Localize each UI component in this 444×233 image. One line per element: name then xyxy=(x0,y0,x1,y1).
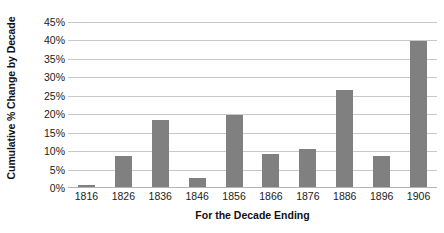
bar xyxy=(189,178,206,187)
x-axis-tick-labels: 1816182618361846185618661876188618961906 xyxy=(68,190,437,208)
bar xyxy=(262,154,279,187)
x-axis-title: For the Decade Ending xyxy=(68,209,437,221)
y-axis-tick-label: 0% xyxy=(23,182,65,194)
x-axis-tick-label: 1856 xyxy=(214,190,254,202)
y-axis-tick-label: 30% xyxy=(23,71,65,83)
x-axis-tick-label: 1846 xyxy=(177,190,217,202)
y-axis-tick-labels: 0%5%10%15%20%25%30%35%40%45% xyxy=(22,0,68,233)
x-axis-tick-label: 1896 xyxy=(362,190,402,202)
x-axis-tick-label: 1866 xyxy=(251,190,291,202)
y-axis-tick-label: 20% xyxy=(23,108,65,120)
y-axis-tick-label: 25% xyxy=(23,90,65,102)
x-axis-tick-label: 1836 xyxy=(140,190,180,202)
y-axis-title-text: Cumulative % Change by Decade xyxy=(5,16,17,179)
y-axis-tick-label: 45% xyxy=(23,16,65,28)
bar-chart: Cumulative % Change by Decade 0%5%10%15%… xyxy=(0,0,444,233)
y-axis-title: Cumulative % Change by Decade xyxy=(0,0,22,195)
x-axis-line xyxy=(68,187,437,188)
plot-area xyxy=(68,22,437,188)
bar xyxy=(410,41,427,187)
bar xyxy=(336,90,353,187)
x-axis-tick-label: 1886 xyxy=(325,190,365,202)
x-axis-tick-label: 1816 xyxy=(66,190,106,202)
bar xyxy=(115,156,132,187)
y-axis-tick-label: 5% xyxy=(23,164,65,176)
y-axis-tick-label: 35% xyxy=(23,53,65,65)
bar xyxy=(299,149,316,187)
bars-group xyxy=(68,22,437,188)
x-axis-tick-label: 1826 xyxy=(103,190,143,202)
y-axis-tick-label: 10% xyxy=(23,145,65,157)
bar xyxy=(152,120,169,187)
bar xyxy=(226,115,243,187)
bar xyxy=(373,156,390,187)
y-axis-tick-label: 40% xyxy=(23,34,65,46)
x-axis-tick-label: 1906 xyxy=(399,190,439,202)
x-axis-tick-label: 1876 xyxy=(288,190,328,202)
y-axis-tick-label: 15% xyxy=(23,127,65,139)
